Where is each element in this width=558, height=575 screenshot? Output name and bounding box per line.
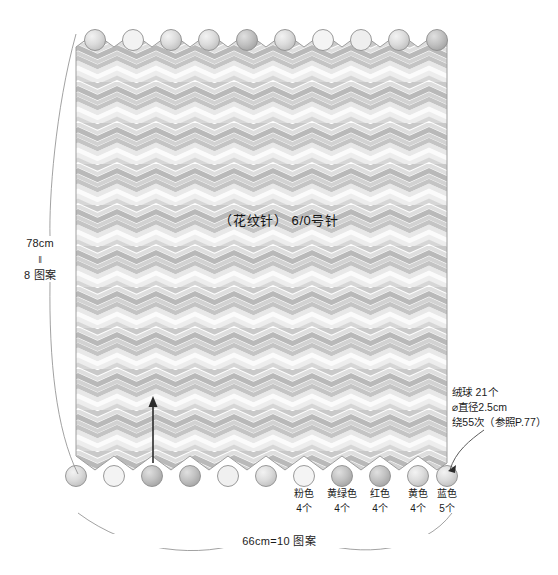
pompom-note-line2: ⌀直径2.5cm xyxy=(452,401,507,413)
color-legend-item-blue: 蓝色 5个 xyxy=(424,487,470,516)
bottom-dimension-label: 66cm=10 图案 xyxy=(0,534,558,548)
fabric-body xyxy=(70,28,454,478)
left-dimension-equals: ‖ xyxy=(38,255,42,265)
color-legend-name: 蓝色 xyxy=(437,488,457,499)
color-legend-name: 黄绿色 xyxy=(327,488,357,499)
pattern-diagram-page: （花纹针） 6/0号针 78cm ‖ 8 图案 绒球 21个 ⌀直径2.5cm … xyxy=(0,0,558,575)
bottom-dimension-value: 66cm=10 图案 xyxy=(237,535,321,547)
left-dimension-value: 78cm xyxy=(26,237,54,249)
left-dimension-label: 78cm ‖ 8 图案 xyxy=(14,236,66,284)
color-legend-name: 红色 xyxy=(370,488,390,499)
color-legend-name: 粉色 xyxy=(294,488,314,499)
left-dimension-repeat: 8 图案 xyxy=(24,269,56,281)
pompom-note: 绒球 21个 ⌀直径2.5cm 绕55次（参照P.77） xyxy=(452,385,546,430)
schematic-artwork xyxy=(0,0,558,575)
pompom-note-line1: 绒球 21个 xyxy=(452,386,498,398)
color-legend-count: 5个 xyxy=(424,502,470,517)
stitch-pattern-note: （花纹针） 6/0号针 xyxy=(0,213,558,230)
pompom-leader-line xyxy=(448,430,484,473)
pompom-note-line3: 绕55次（参照P.77） xyxy=(452,416,546,428)
